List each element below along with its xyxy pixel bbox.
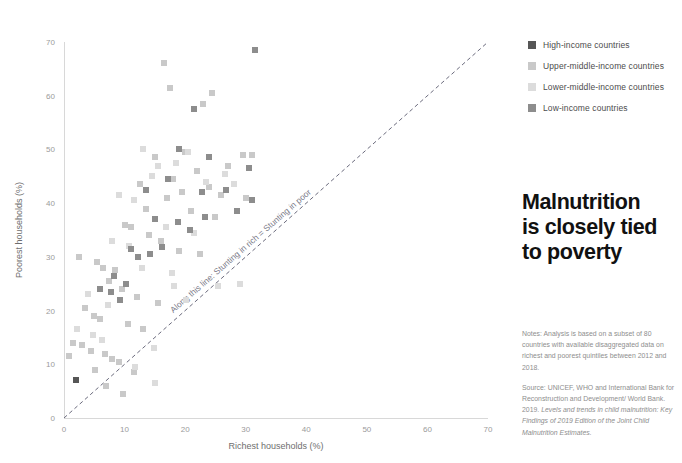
page-title-line-1: Malnutrition: [522, 190, 682, 215]
data-point: [176, 146, 182, 152]
data-point: [106, 278, 112, 284]
data-point: [203, 179, 209, 185]
x-axis-tick-label: 30: [241, 425, 250, 434]
data-point: [218, 192, 224, 198]
data-point: [100, 265, 106, 271]
legend-swatch-icon: [528, 41, 536, 49]
data-point: [206, 154, 212, 160]
data-point: [225, 163, 231, 169]
data-point: [128, 246, 134, 252]
data-point: [197, 251, 203, 257]
data-point: [119, 286, 125, 292]
data-point: [155, 163, 161, 169]
legend-swatch-icon: [528, 83, 536, 91]
data-point: [152, 380, 158, 386]
data-point: [109, 238, 115, 244]
notes-block: Notes: Analysis is based on a subset of …: [522, 328, 678, 447]
data-point: [158, 238, 164, 244]
data-point: [143, 187, 149, 193]
page-title-line-3: to poverty: [522, 240, 682, 265]
y-axis-tick-label: 50: [46, 145, 55, 154]
legend-item-label: Upper-middle-income countries: [543, 61, 664, 71]
data-point: [123, 281, 129, 287]
y-axis-tick-label: 40: [46, 199, 55, 208]
data-point: [191, 106, 197, 112]
data-point: [249, 197, 255, 203]
data-point: [70, 340, 76, 346]
data-point: [167, 85, 173, 91]
data-point: [105, 302, 111, 308]
legend-item-lower-middle-income: Lower-middle-income countries: [528, 78, 682, 95]
data-point: [90, 332, 96, 338]
data-point: [147, 251, 153, 257]
data-point: [94, 259, 100, 265]
data-point: [134, 294, 140, 300]
legend-item-low-income: Low-income countries: [528, 99, 682, 116]
data-point: [97, 316, 103, 322]
data-point: [212, 214, 218, 220]
diagonal-annotation-group: Along this line: Stunting in rich = Stun…: [168, 187, 313, 315]
data-point: [151, 345, 157, 351]
data-point: [97, 286, 103, 292]
x-axis-tick-label: 40: [302, 425, 311, 434]
data-point: [132, 364, 138, 370]
y-axis-tick-label: 70: [46, 38, 55, 47]
data-point: [165, 176, 171, 182]
data-point: [82, 305, 88, 311]
data-point: [183, 297, 189, 303]
data-point: [140, 146, 146, 152]
legend-item-upper-middle-income: Upper-middle-income countries: [528, 57, 682, 74]
x-axis-tick-label: 50: [362, 425, 371, 434]
data-point: [109, 356, 115, 362]
data-point: [79, 342, 85, 348]
data-point: [108, 289, 114, 295]
data-point: [175, 219, 181, 225]
page-title: Malnutrition is closely tied to poverty: [522, 190, 682, 265]
legend-item-label: High-income countries: [543, 40, 630, 50]
data-point: [76, 254, 82, 260]
data-point: [159, 244, 165, 250]
data-point: [112, 267, 118, 273]
notes-analysis: Notes: Analysis is based on a subset of …: [522, 328, 678, 373]
data-point: [74, 326, 80, 332]
x-axis-tick-label: 60: [423, 425, 432, 434]
data-point: [149, 173, 155, 179]
data-point: [120, 391, 126, 397]
data-point: [223, 187, 229, 193]
x-axis-tick-label: 10: [120, 425, 129, 434]
right-sidebar: High-income countries Upper-middle-incom…: [500, 0, 682, 463]
data-point: [169, 270, 175, 276]
data-point: [199, 189, 205, 195]
data-point: [222, 171, 228, 177]
data-point: [111, 273, 117, 279]
data-point: [85, 291, 91, 297]
data-point: [185, 149, 191, 155]
data-point: [176, 248, 182, 254]
data-point: [246, 165, 252, 171]
reference-diagonal-line: [64, 42, 488, 418]
data-point: [143, 206, 149, 212]
data-point: [88, 348, 94, 354]
data-point: [128, 224, 134, 230]
data-point: [102, 351, 108, 357]
notes-source: Source: UNICEF, WHO and International Ba…: [522, 382, 678, 438]
data-point: [179, 189, 185, 195]
legend-item-label: Lower-middle-income countries: [543, 82, 664, 92]
data-point: [116, 359, 122, 365]
data-point: [171, 283, 177, 289]
data-point: [200, 101, 206, 107]
y-axis-tick-label: 0: [51, 414, 56, 423]
data-point: [139, 265, 145, 271]
data-point: [161, 60, 167, 66]
data-point: [140, 326, 146, 332]
scatter-plot-svg: 010203040506070010203040506070Richest ho…: [0, 0, 500, 463]
data-point: [209, 90, 215, 96]
data-point: [164, 195, 170, 201]
data-point: [234, 208, 240, 214]
data-point: [188, 208, 194, 214]
data-point: [92, 367, 98, 373]
legend-item-high-income: High-income countries: [528, 36, 682, 53]
y-axis-tick-label: 60: [46, 92, 55, 101]
x-axis-tick-label: 0: [62, 425, 67, 434]
data-point: [243, 195, 249, 201]
